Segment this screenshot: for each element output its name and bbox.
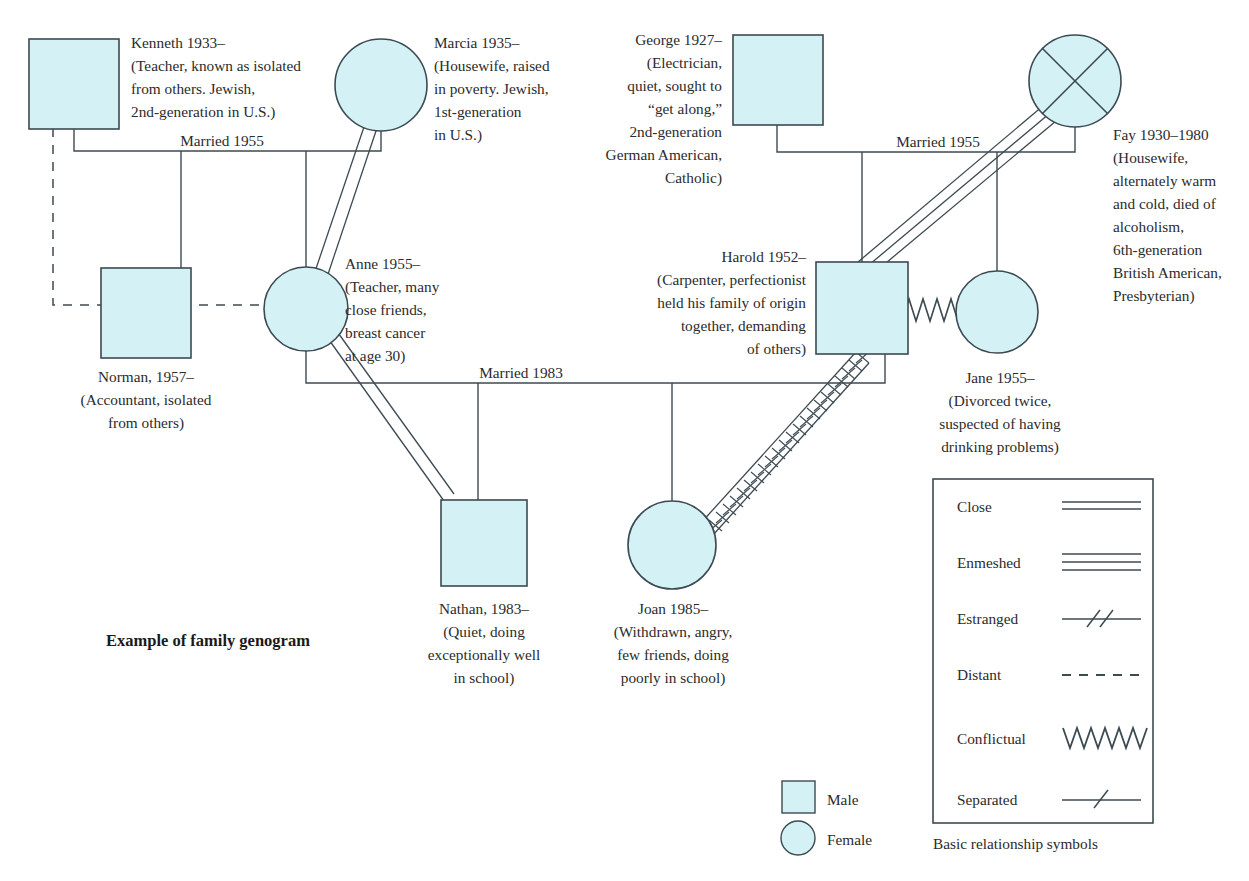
- svg-text:(Quiet, doing: (Quiet, doing: [443, 623, 525, 641]
- svg-text:from others): from others): [108, 414, 184, 432]
- svg-text:Fay 1930–1980: Fay 1930–1980: [1113, 126, 1209, 143]
- person-label-jane: Jane 1955– (Divorced twice, suspected of…: [939, 369, 1061, 456]
- person-node-george[interactable]: [733, 35, 823, 125]
- svg-text:(Withdrawn, angry,: (Withdrawn, angry,: [614, 623, 733, 641]
- legend-label-distant: Distant: [957, 666, 1002, 683]
- svg-text:held his family of origin: held his family of origin: [657, 294, 806, 311]
- person-label-fay: Fay 1930–1980 (Housewife, alternately wa…: [1113, 126, 1222, 305]
- person-node-jane[interactable]: [956, 271, 1038, 353]
- svg-text:German American,: German American,: [606, 146, 722, 163]
- svg-text:poorly in school): poorly in school): [621, 669, 726, 687]
- person-node-anne[interactable]: [264, 267, 348, 351]
- svg-text:(Divorced twice,: (Divorced twice,: [949, 392, 1052, 410]
- legend-border: [933, 479, 1153, 823]
- key-circle-female-icon: [781, 821, 815, 855]
- person-node-norman[interactable]: [101, 268, 191, 358]
- relationship-estranged-harold-joan: [700, 352, 869, 535]
- svg-text:2nd-generation: 2nd-generation: [629, 123, 722, 140]
- svg-text:British American,: British American,: [1113, 264, 1222, 281]
- svg-text:(Electrician,: (Electrician,: [647, 54, 722, 72]
- legend-label-estranged: Estranged: [957, 610, 1019, 627]
- svg-text:Presbyterian): Presbyterian): [1113, 287, 1195, 305]
- key-label-male: Male: [827, 791, 859, 808]
- person-label-anne: Anne 1955– (Teacher, many close friends,…: [345, 255, 440, 365]
- legend-label-separated: Separated: [957, 791, 1018, 808]
- svg-text:(Housewife,: (Housewife,: [1113, 149, 1188, 167]
- svg-text:(Carpenter, perfectionist: (Carpenter, perfectionist: [657, 271, 807, 289]
- person-label-kenneth: Kenneth 1933– (Teacher, known as isolate…: [131, 34, 301, 121]
- svg-text:Anne 1955–: Anne 1955–: [345, 255, 421, 272]
- key-square-male-icon: [782, 781, 815, 813]
- person-label-george: George 1927– (Electrician, quiet, sought…: [606, 31, 723, 187]
- marriage-label-kenneth-marcia: Married 1955: [180, 132, 264, 149]
- svg-text:Norman, 1957–: Norman, 1957–: [98, 368, 194, 385]
- person-node-harold[interactable]: [816, 262, 908, 354]
- svg-text:1st-generation: 1st-generation: [434, 103, 522, 120]
- genogram-canvas: Married 1955 Married 1955 Married 1983 K…: [0, 0, 1249, 881]
- key-label-female: Female: [827, 831, 872, 848]
- svg-text:(Housewife, raised: (Housewife, raised: [434, 57, 550, 75]
- person-node-nathan[interactable]: [441, 500, 527, 586]
- svg-text:few friends, doing: few friends, doing: [617, 646, 729, 663]
- svg-text:Harold 1952–: Harold 1952–: [721, 248, 806, 265]
- svg-text:“get along,”: “get along,”: [648, 100, 722, 117]
- svg-text:in school): in school): [454, 669, 515, 687]
- person-label-norman: Norman, 1957– (Accountant, isolated from…: [81, 368, 212, 432]
- svg-text:from others. Jewish,: from others. Jewish,: [131, 80, 255, 97]
- svg-text:of others): of others): [747, 340, 806, 358]
- svg-text:alcoholism,: alcoholism,: [1113, 218, 1184, 235]
- person-label-nathan: Nathan, 1983– (Quiet, doing exceptionall…: [428, 600, 541, 687]
- svg-text:Kenneth 1933–: Kenneth 1933–: [131, 34, 225, 51]
- legend-label-conflictual: Conflictual: [957, 730, 1026, 747]
- svg-text:Joan 1985–: Joan 1985–: [638, 600, 708, 617]
- svg-text:quiet, sought to: quiet, sought to: [627, 77, 722, 94]
- svg-text:in poverty. Jewish,: in poverty. Jewish,: [434, 80, 549, 97]
- svg-text:2nd-generation in U.S.): 2nd-generation in U.S.): [131, 103, 275, 121]
- legend-label-close: Close: [957, 498, 992, 515]
- svg-text:Nathan, 1983–: Nathan, 1983–: [439, 600, 529, 617]
- marriage-label-george-fay: Married 1955: [896, 133, 980, 150]
- svg-text:alternately warm: alternately warm: [1113, 172, 1216, 189]
- legend-label-enmeshed: Enmeshed: [957, 554, 1021, 571]
- legend-panel: Close Enmeshed Estranged Distant Conflic…: [933, 479, 1153, 852]
- svg-text:at age 30): at age 30): [345, 347, 405, 365]
- svg-text:Jane 1955–: Jane 1955–: [965, 369, 1035, 386]
- person-label-harold: Harold 1952– (Carpenter, perfectionist h…: [657, 248, 807, 358]
- svg-text:in U.S.): in U.S.): [434, 126, 482, 144]
- svg-text:close friends,: close friends,: [345, 301, 427, 318]
- svg-text:(Teacher, known as isolated: (Teacher, known as isolated: [131, 57, 301, 75]
- person-node-joan[interactable]: [628, 501, 716, 589]
- svg-text:Catholic): Catholic): [665, 169, 722, 187]
- svg-text:exceptionally well: exceptionally well: [428, 646, 541, 663]
- svg-text:drinking problems): drinking problems): [941, 438, 1059, 456]
- person-node-marcia[interactable]: [335, 39, 427, 131]
- person-node-fay[interactable]: [1029, 35, 1121, 127]
- sex-key: Male Female: [781, 781, 872, 855]
- svg-text:George 1927–: George 1927–: [635, 31, 722, 48]
- person-node-kenneth[interactable]: [29, 39, 119, 129]
- svg-text:together, demanding: together, demanding: [681, 317, 806, 334]
- svg-text:6th-generation: 6th-generation: [1113, 241, 1203, 258]
- svg-text:Marcia 1935–: Marcia 1935–: [434, 34, 520, 51]
- person-label-marcia: Marcia 1935– (Housewife, raised in pover…: [434, 34, 550, 144]
- svg-text:and cold, died of: and cold, died of: [1113, 195, 1217, 212]
- legend-title: Basic relationship symbols: [933, 835, 1098, 852]
- marriage-line-anne-harold: [306, 341, 885, 505]
- svg-text:(Accountant, isolated: (Accountant, isolated: [81, 391, 212, 409]
- diagram-caption: Example of family genogram: [106, 631, 310, 650]
- svg-text:(Teacher, many: (Teacher, many: [345, 278, 440, 296]
- person-label-joan: Joan 1985– (Withdrawn, angry, few friend…: [614, 600, 733, 687]
- svg-text:breast cancer: breast cancer: [345, 324, 425, 341]
- marriage-label-anne-harold: Married 1983: [479, 364, 563, 381]
- svg-text:suspected of having: suspected of having: [939, 415, 1061, 432]
